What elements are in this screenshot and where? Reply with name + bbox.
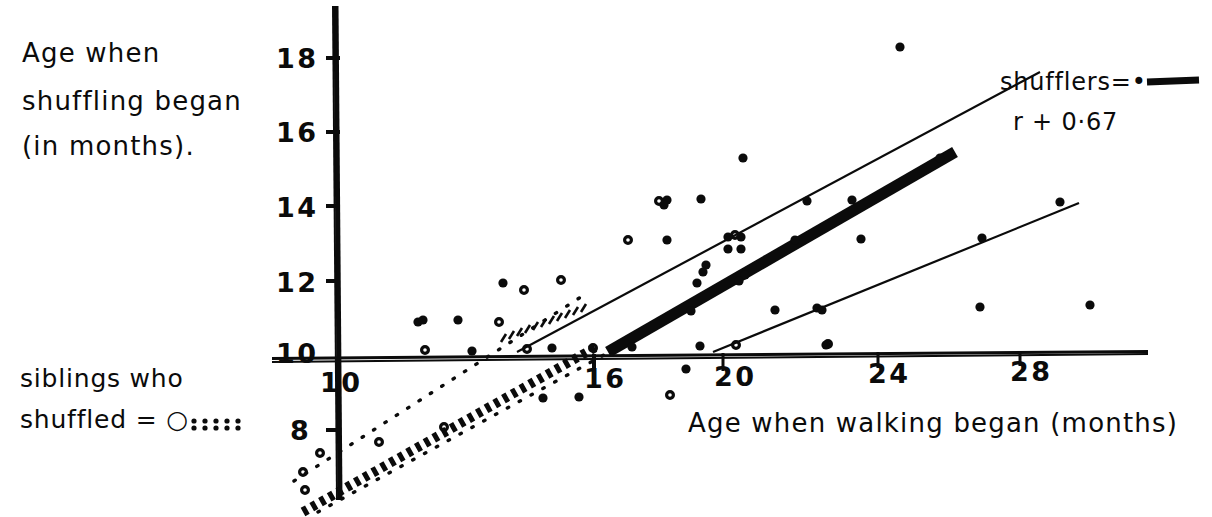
data-point bbox=[733, 342, 740, 349]
data-point bbox=[734, 276, 743, 285]
y-axis-title-line1: Age when bbox=[22, 38, 160, 68]
data-point bbox=[467, 346, 476, 355]
data-point bbox=[1085, 300, 1094, 309]
shufflers-lower-band bbox=[713, 203, 1079, 352]
data-point bbox=[547, 343, 556, 352]
data-point bbox=[317, 450, 324, 457]
y-tick-labels: 18 16 14 12 10 8 bbox=[276, 43, 319, 446]
data-point bbox=[418, 315, 427, 324]
siblings-fit-lines bbox=[294, 295, 624, 512]
data-point bbox=[790, 235, 799, 244]
figure-root: 18 16 14 12 10 8 10 16 20 24 28 Age when… bbox=[0, 0, 1212, 517]
x-tick-label-16: 16 bbox=[584, 363, 627, 394]
shufflers-regression-line bbox=[608, 152, 955, 352]
data-point bbox=[935, 153, 944, 162]
data-point bbox=[656, 198, 663, 205]
y-tick-label-8: 8 bbox=[290, 415, 311, 446]
y-axis-title-line2: shuffling began bbox=[22, 86, 242, 116]
legend-shufflers-line-swatch bbox=[1147, 80, 1199, 82]
data-point bbox=[498, 278, 507, 287]
data-point bbox=[667, 392, 674, 399]
data-point bbox=[817, 305, 826, 314]
data-point bbox=[538, 393, 547, 402]
data-point bbox=[681, 364, 690, 373]
y-axis bbox=[333, 6, 340, 500]
data-point bbox=[524, 346, 531, 353]
x-axis-title: Age when walking began (months) bbox=[688, 408, 1178, 438]
y-tick-label-10: 10 bbox=[276, 338, 319, 369]
y-axis-title: Age when shuffling began (in months). bbox=[22, 38, 242, 161]
legend-siblings-line1: siblings who bbox=[20, 364, 184, 393]
data-point bbox=[692, 278, 701, 287]
y-axis-title-line3: (in months). bbox=[22, 131, 195, 161]
data-point bbox=[627, 342, 636, 351]
data-point bbox=[558, 277, 565, 284]
siblings-lower-band bbox=[318, 344, 624, 512]
data-point bbox=[521, 287, 528, 294]
y-tick-label-18: 18 bbox=[276, 43, 319, 74]
data-point bbox=[496, 319, 503, 326]
data-point bbox=[441, 424, 448, 431]
legend-shufflers-r-value: r + 0·67 bbox=[1013, 108, 1118, 136]
data-point bbox=[422, 347, 429, 354]
legend-siblings: siblings who shuffled = ○ bbox=[20, 364, 241, 434]
data-point bbox=[847, 195, 856, 204]
data-point bbox=[738, 153, 747, 162]
data-point bbox=[302, 487, 309, 494]
data-point bbox=[770, 305, 779, 314]
x-tick-labels: 10 16 20 24 28 bbox=[320, 356, 1053, 398]
data-point bbox=[723, 244, 732, 253]
data-point bbox=[698, 267, 707, 276]
x-tick-label-20: 20 bbox=[714, 361, 757, 392]
x-tick-label-10: 10 bbox=[320, 367, 363, 398]
legend-siblings-dotted-swatch bbox=[191, 418, 240, 430]
data-point bbox=[300, 469, 307, 476]
data-point bbox=[453, 315, 462, 324]
data-point bbox=[686, 306, 695, 315]
data-point bbox=[376, 439, 383, 446]
data-point bbox=[977, 233, 986, 242]
data-point bbox=[802, 196, 811, 205]
legend-siblings-line2: shuffled = ○ bbox=[20, 405, 189, 434]
data-point bbox=[856, 234, 865, 243]
y-tick-label-12: 12 bbox=[276, 267, 319, 298]
data-point bbox=[574, 392, 583, 401]
scatter-plot-svg: 18 16 14 12 10 8 10 16 20 24 28 Age when… bbox=[0, 0, 1212, 517]
shufflers-fit-lines bbox=[517, 72, 1079, 352]
x-tick-label-28: 28 bbox=[1010, 356, 1053, 387]
y-tick-label-16: 16 bbox=[276, 117, 319, 148]
y-tick-label-14: 14 bbox=[276, 192, 319, 223]
data-point bbox=[625, 237, 632, 244]
series-siblings-points bbox=[300, 198, 832, 494]
data-point bbox=[695, 341, 704, 350]
data-point bbox=[736, 244, 745, 253]
data-point bbox=[662, 235, 671, 244]
data-point bbox=[696, 194, 705, 203]
data-point bbox=[1055, 197, 1064, 206]
data-point bbox=[975, 302, 984, 311]
x-tick-label-24: 24 bbox=[868, 358, 911, 389]
data-point bbox=[895, 42, 904, 51]
